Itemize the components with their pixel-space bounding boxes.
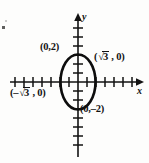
label-left-suffix: , 0)	[30, 87, 46, 98]
x-axis-label: x	[137, 86, 142, 96]
label-left-vertex: (–√3 , 0)	[10, 87, 46, 99]
label-right-suffix: , 0)	[109, 51, 125, 62]
scan-artifact-speck-secondary	[5, 20, 7, 22]
label-bottom-vertex: (0,–2)	[80, 104, 104, 115]
radical-left: √3	[18, 87, 30, 99]
scan-artifact-speck	[2, 26, 5, 29]
y-axis-arrow-icon	[74, 13, 82, 21]
coordinate-plane-svg	[0, 0, 149, 163]
graph-figure: (0,2) (0,–2) (√3 , 0) (–√3 , 0) y x	[0, 0, 149, 163]
y-axis-label: y	[82, 12, 86, 22]
label-left-paren-open: (–	[10, 87, 18, 98]
radical-right: √3	[97, 51, 109, 63]
label-top-vertex: (0,2)	[40, 42, 59, 53]
label-right-vertex: (√3 , 0)	[94, 51, 125, 63]
radicand-left: 3	[23, 87, 30, 99]
radicand-right: 3	[102, 51, 109, 63]
